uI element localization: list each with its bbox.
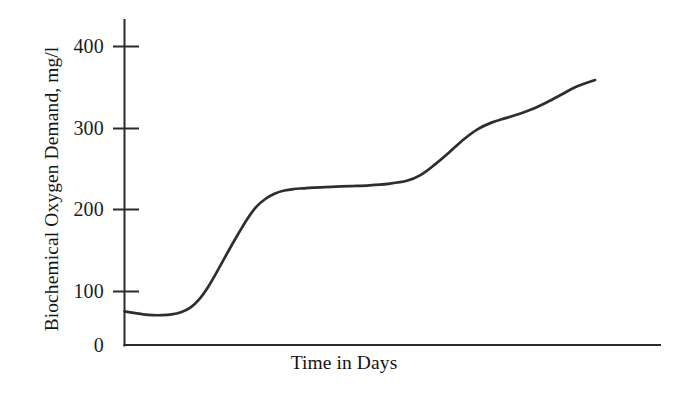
y-tick-label-400: 400 [58,35,104,58]
y-tick-label-300: 300 [58,117,104,140]
y-axis-title: Biochemical Oxygen Demand, mg/l [41,19,63,359]
y-tick-label-100: 100 [58,280,104,303]
chart-figure: 400 300 200 100 0 Biochemical Oxygen Dem… [0,0,688,395]
bod-curve [125,80,596,315]
x-axis-title: Time in Days [0,352,688,374]
y-tick-label-200: 200 [58,198,104,221]
